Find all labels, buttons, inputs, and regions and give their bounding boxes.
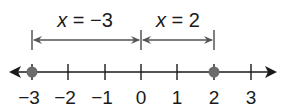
number-line-axis <box>9 66 277 78</box>
tick-label: −2 <box>54 87 76 108</box>
tick-label: 1 <box>172 87 183 108</box>
tick-label: 3 <box>246 87 257 108</box>
bracket-x-eq-neg3: x = −3 <box>32 9 139 50</box>
tick-label: 0 <box>136 87 147 108</box>
bracket-label-2: x = 2 <box>155 9 200 31</box>
number-line-diagram: x = −3 x = 2 −3 −2 −1 0 1 2 3 <box>0 0 285 108</box>
tick-label: 2 <box>209 87 220 108</box>
tick-label: −3 <box>18 87 40 108</box>
point-neg3 <box>27 67 38 78</box>
tick-labels: −3 −2 −1 0 1 2 3 <box>18 87 256 108</box>
bracket-label-neg3: x = −3 <box>56 9 113 31</box>
bracket-x-eq-2: x = 2 <box>143 9 214 50</box>
point-2 <box>209 67 220 78</box>
tick-label: −1 <box>91 87 113 108</box>
